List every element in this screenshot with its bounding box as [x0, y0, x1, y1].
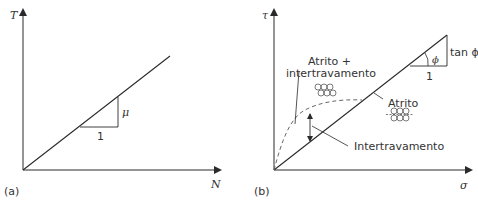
leader-friction — [374, 93, 383, 99]
panel-tag: (a) — [4, 185, 19, 198]
angle-arc — [425, 53, 428, 66]
diagram-canvas: T N μ 1 (a) τ σ ϕ — [0, 0, 478, 205]
x-axis-label: σ — [460, 179, 468, 192]
interlock-label: Intertravamento — [354, 140, 444, 153]
slope-label: tan ϕ — [450, 46, 478, 59]
friction-label: Atrito — [388, 97, 419, 110]
panel-a: T N μ 1 (a) — [4, 9, 221, 198]
x-axis-label: N — [210, 178, 221, 191]
panel-b: τ σ ϕ tan ϕ 1 Atrito + intertravamento A… — [254, 9, 478, 198]
combined-label-line2: intertravamento — [286, 67, 376, 80]
friction-line — [23, 56, 170, 170]
interlocked-particles-icon — [315, 84, 336, 96]
slope-label: μ — [122, 106, 129, 119]
run-label: 1 — [426, 70, 433, 83]
slope-triangle — [80, 97, 118, 127]
y-axis-label: τ — [262, 9, 269, 22]
y-axis-label: T — [10, 9, 19, 22]
run-label: 1 — [97, 130, 104, 143]
angle-label: ϕ — [432, 54, 439, 65]
panel-tag: (b) — [254, 185, 270, 198]
